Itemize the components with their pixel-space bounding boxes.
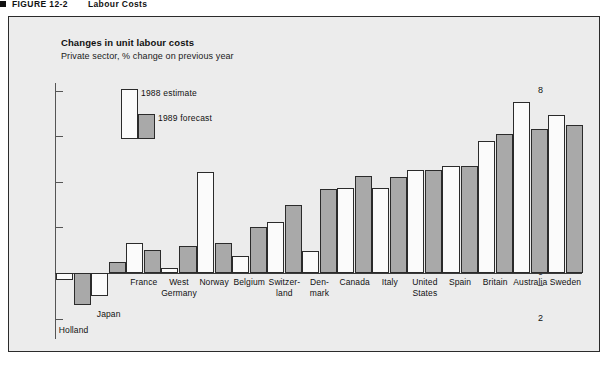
bar-1988 [407,170,424,273]
bar-1988 [56,273,73,280]
bar-1989 [531,129,548,273]
bar-1988 [126,243,143,273]
figure-number: FIGURE 12-2 [12,0,68,9]
bar-1988 [232,256,249,273]
bar-1988 [91,273,108,296]
figure-name: Labour Costs [88,0,148,9]
bar-1989 [320,189,337,273]
bar-1988 [161,268,178,273]
bar-group [91,57,126,347]
bar-1988 [302,251,319,273]
chart-title: Changes in unit labour costs [61,37,234,50]
bar-1988 [267,222,284,273]
bar-1989 [496,134,513,273]
bar-1988 [337,188,354,274]
bar-1989 [109,262,126,273]
bar-1989 [179,246,196,273]
bar-1989 [74,273,91,305]
bar-group [232,57,267,347]
bar-series-container: HollandJapanFranceWest GermanyNorwayBelg… [56,57,583,347]
bar-1989 [144,250,161,273]
bar-1988 [513,102,530,273]
bar-group [372,57,407,347]
bar-1989 [250,227,267,273]
bar-1989 [425,170,442,273]
bar-group [267,57,302,347]
bar-group [548,57,583,347]
bar-1989 [461,166,478,273]
bar-group [407,57,442,347]
bar-group [126,57,161,347]
bar-group [161,57,196,347]
bar-1989 [285,205,302,273]
bullet-square-icon [0,1,6,7]
bar-group [513,57,548,347]
bar-1989 [355,176,372,273]
bar-group [478,57,513,347]
bar-group [302,57,337,347]
bar-1988 [442,166,459,273]
bar-1988 [478,141,495,273]
bar-1989 [566,125,583,273]
bar-1988 [548,115,565,273]
bar-1989 [390,177,407,273]
plot-area: 864202+– HollandJapanFranceWest GermanyN… [55,57,595,347]
bar-1988 [372,188,389,274]
bar-group [442,57,477,347]
chart-panel: Changes in unit labour costs Private sec… [8,16,600,352]
bar-1989 [215,243,232,273]
figure-caption: FIGURE 12-2 Labour Costs [0,0,147,10]
bar-group [56,57,91,347]
bar-1988 [197,172,214,273]
bar-group [197,57,232,347]
x-axis-category-label: Sweden [536,277,596,288]
bar-group [337,57,372,347]
